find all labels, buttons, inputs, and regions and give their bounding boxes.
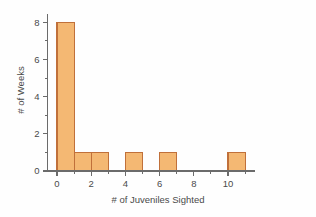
- x-tick-label: 8: [191, 178, 196, 189]
- x-tick-label: 4: [123, 178, 128, 189]
- histogram-chart: 0246810 02468 # of Juveniles Sighted # o…: [0, 0, 316, 217]
- bars-group: [57, 22, 245, 171]
- histogram-bar: [160, 152, 177, 171]
- x-tick-label: 2: [89, 178, 94, 189]
- histogram-bar: [228, 152, 245, 171]
- histogram-bar: [125, 152, 142, 171]
- y-tick-label: 4: [34, 91, 39, 102]
- y-tick-label: 0: [34, 165, 39, 176]
- y-axis-title: # of Weeks: [15, 66, 26, 114]
- histogram-bar: [57, 22, 74, 171]
- axes-group: [48, 14, 256, 171]
- x-tick-label: 0: [54, 178, 59, 189]
- y-tick-label: 2: [34, 128, 39, 139]
- y-axis-tick-labels: 02468: [34, 17, 39, 177]
- x-axis-title: # of Juveniles Sighted: [112, 194, 205, 205]
- x-axis-ticks: [57, 171, 245, 176]
- x-tick-label: 10: [223, 178, 234, 189]
- y-tick-label: 8: [34, 17, 39, 28]
- chart-canvas: 0246810 02468 # of Juveniles Sighted # o…: [0, 0, 316, 217]
- histogram-bar: [74, 152, 91, 171]
- plot-area: 0246810 02468: [34, 14, 255, 189]
- x-axis-tick-labels: 0246810: [54, 178, 233, 189]
- x-tick-label: 6: [157, 178, 162, 189]
- y-axis-ticks: [43, 22, 48, 171]
- histogram-bar: [91, 152, 108, 171]
- y-tick-label: 6: [34, 54, 39, 65]
